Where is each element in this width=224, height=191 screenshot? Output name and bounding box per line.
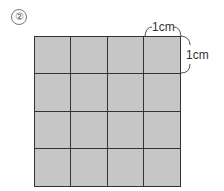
dimension-braces [0, 0, 224, 191]
top-dimension-label: 1cm [152, 20, 175, 34]
right-dimension-label: 1cm [186, 48, 209, 62]
